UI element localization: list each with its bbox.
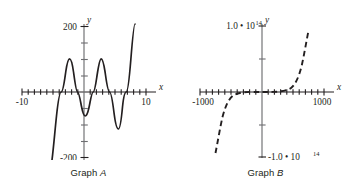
y-tick-label-b-max: 1.0 • 10 14 bbox=[226, 19, 263, 31]
x-axis-label-b: x bbox=[336, 82, 342, 92]
y-tick-label-a-max: 200 bbox=[63, 22, 77, 32]
y-tick-label-a-min: -200 bbox=[60, 153, 77, 160]
x-tick-label-a-max: 10 bbox=[141, 97, 151, 107]
panel-graph-a: x y -10 10 200 -200 Graph A bbox=[0, 0, 177, 190]
x-tick-label-b-max: 1000 bbox=[313, 97, 332, 107]
y-axis-label-b: y bbox=[264, 15, 270, 25]
figure-container: x y -10 10 200 -200 Graph A bbox=[0, 0, 355, 190]
y-axis-label-a: y bbox=[86, 15, 92, 25]
caption-graph-b: Graph B bbox=[177, 167, 354, 178]
panel-graph-b: x y -1000 1000 1.0 • 10 14 -1.0 • 10 14 … bbox=[177, 0, 354, 190]
y-tick-label-b-max-exponent: 14 bbox=[256, 19, 263, 26]
caption-graph-b-letter: B bbox=[277, 167, 283, 178]
x-axis-label-a: x bbox=[158, 82, 164, 92]
y-tick-label-b-min: -1.0 • 10 14 bbox=[268, 150, 320, 160]
x-tick-label-b-min: -1000 bbox=[192, 97, 214, 107]
plot-area-graph-a: x y -10 10 200 -200 bbox=[0, 0, 177, 160]
y-tick-label-b-min-mantissa: -1.0 • 10 bbox=[268, 152, 300, 160]
caption-graph-a-prefix: Graph bbox=[70, 167, 100, 178]
y-tick-label-b-min-exponent: 14 bbox=[313, 150, 320, 157]
plot-area-graph-b: x y -1000 1000 1.0 • 10 14 -1.0 • 10 14 bbox=[177, 0, 354, 160]
y-tick-label-b-max-mantissa: 1.0 • 10 bbox=[226, 21, 255, 31]
x-tick-label-a-min: -10 bbox=[16, 97, 29, 107]
caption-graph-a: Graph A bbox=[0, 167, 177, 178]
caption-graph-b-prefix: Graph bbox=[247, 167, 277, 178]
caption-graph-a-letter: A bbox=[100, 167, 106, 178]
